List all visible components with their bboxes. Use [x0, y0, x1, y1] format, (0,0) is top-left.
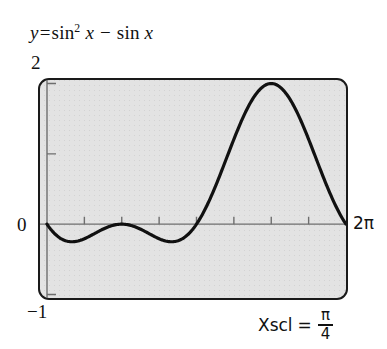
y-zero-label: 0 — [17, 214, 27, 236]
xscl-fraction: π 4 — [318, 308, 334, 342]
xscl-equals: = — [298, 315, 312, 335]
equation-sin-2: sin — [117, 22, 140, 43]
x-max-label: 2π — [353, 213, 374, 233]
equation-sin-1: sin — [52, 22, 75, 43]
equation-equals: = — [40, 22, 51, 43]
equation-title: y=sin2 x − sin x — [30, 22, 153, 44]
y-axis-ticks — [47, 84, 56, 295]
y-min-label: −1 — [27, 301, 47, 323]
graph-figure: y=sin2 x − sin x 2 0 −1 2π Xscl = π 4 — [0, 0, 387, 349]
y-max-label: 2 — [31, 52, 41, 74]
equation-lhs: y — [30, 22, 39, 43]
equation-exponent: 2 — [74, 22, 80, 35]
xscl-label: Xscl — [258, 315, 293, 335]
xscl-numerator: π — [318, 308, 333, 324]
equation-variable-1: x — [85, 22, 94, 43]
equation-variable-2: x — [145, 22, 154, 43]
equation-minus: − — [100, 22, 111, 43]
xscl-caption: Xscl = π 4 — [258, 308, 333, 342]
xscl-denominator: 4 — [318, 326, 334, 342]
calculator-screen — [38, 78, 348, 300]
plot-area — [40, 80, 346, 298]
